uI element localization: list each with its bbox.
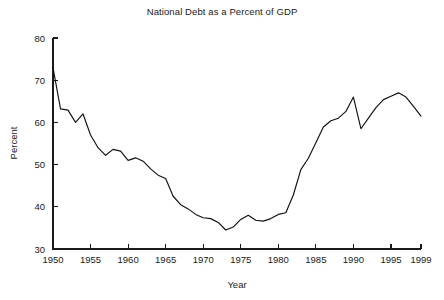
x-tick-label: 1985 [305, 254, 326, 265]
data-series-line [53, 68, 421, 230]
x-axis-tick-marks [53, 244, 421, 249]
x-tick-label: 1995 [380, 254, 401, 265]
y-tick-label: 80 [34, 33, 45, 44]
x-tick-label: 1999 [410, 254, 431, 265]
x-tick-label: 1955 [80, 254, 101, 265]
x-tick-label: 1960 [118, 254, 139, 265]
y-tick-label: 70 [34, 75, 45, 86]
y-tick-label: 60 [34, 117, 45, 128]
y-tick-label: 40 [34, 201, 45, 212]
y-tick-label: 50 [34, 159, 45, 170]
axis-frame-lines [53, 38, 421, 249]
line-chart-plot: 1950195519601965197019751980198519901995… [0, 0, 444, 300]
x-tick-label: 1965 [155, 254, 176, 265]
y-axis-tick-labels: 304050607080 [34, 33, 45, 255]
chart-figure: National Debt as a Percent of GDP 195019… [0, 0, 444, 300]
x-axis-tick-labels: 1950195519601965197019751980198519901995… [42, 254, 431, 265]
x-tick-label: 1980 [268, 254, 289, 265]
x-tick-label: 1975 [230, 254, 251, 265]
x-tick-label: 1970 [193, 254, 214, 265]
x-tick-label: 1990 [343, 254, 364, 265]
chart-axes [53, 38, 421, 249]
y-tick-label: 30 [34, 244, 45, 255]
x-tick-label: 1950 [42, 254, 63, 265]
y-axis-title: Percent [8, 126, 19, 159]
x-axis-title: Year [227, 279, 246, 290]
